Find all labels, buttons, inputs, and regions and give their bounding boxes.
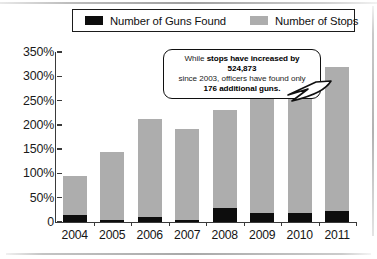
bar-guns-found bbox=[175, 220, 199, 222]
x-axis-label: 2011 bbox=[319, 228, 357, 242]
callout-line-1-prefix: While bbox=[184, 54, 206, 63]
x-axis-label: 2005 bbox=[94, 228, 132, 242]
legend-swatch-guns bbox=[85, 16, 103, 25]
x-axis-tick-mark bbox=[169, 222, 170, 226]
y-axis-tick-mark bbox=[57, 173, 62, 174]
bar-stops bbox=[250, 98, 274, 222]
x-axis-label: 2006 bbox=[131, 228, 169, 242]
bar-stops bbox=[325, 67, 349, 222]
legend-swatch-stops bbox=[250, 16, 268, 25]
bar-guns-found bbox=[325, 211, 349, 222]
bar-group bbox=[325, 52, 349, 222]
y-axis-tick-label: 250% bbox=[23, 93, 54, 107]
x-axis-label: 2010 bbox=[281, 228, 319, 242]
y-axis-tick-label: 200% bbox=[23, 117, 54, 131]
y-axis-tick-mark bbox=[57, 197, 62, 198]
x-axis-label: 2007 bbox=[169, 228, 207, 242]
callout-line-3-bold: 176 additional guns. bbox=[204, 84, 281, 93]
bar-guns-found bbox=[213, 208, 237, 222]
bottom-divider-rule bbox=[6, 253, 371, 255]
bar-guns-found bbox=[138, 217, 162, 222]
x-axis-tick-mark bbox=[319, 222, 320, 226]
bar-group bbox=[100, 52, 124, 222]
x-axis-label: 2009 bbox=[244, 228, 282, 242]
y-axis-tick-label: 300% bbox=[23, 69, 54, 83]
legend-item-guns-found: Number of Guns Found bbox=[85, 15, 226, 27]
x-axis-label: 2004 bbox=[56, 228, 94, 242]
bar-guns-found bbox=[63, 215, 87, 222]
top-divider-rule bbox=[0, 2, 377, 4]
chart-legend: Number of Guns Found Number of Stops bbox=[72, 9, 355, 32]
bar-guns-found bbox=[250, 213, 274, 222]
y-axis-tick-label: 100% bbox=[23, 166, 54, 180]
x-axis-tick-mark bbox=[131, 222, 132, 226]
y-axis-tick-mark bbox=[57, 51, 62, 52]
right-divider-rule bbox=[372, 6, 374, 236]
y-axis-tick-label: 350% bbox=[23, 45, 54, 59]
legend-item-stops: Number of Stops bbox=[250, 15, 358, 27]
bar-group bbox=[63, 52, 87, 222]
chart-figure: Number of Guns Found Number of Stops 050… bbox=[0, 0, 377, 259]
y-axis-tick-mark bbox=[57, 100, 62, 101]
x-axis-tick-mark bbox=[281, 222, 282, 226]
callout-line-3: 176 additional guns. bbox=[170, 84, 314, 94]
bar-stops bbox=[213, 110, 237, 222]
bar-stops bbox=[175, 129, 199, 222]
x-axis-label: 2008 bbox=[206, 228, 244, 242]
y-axis-tick-mark bbox=[57, 76, 62, 77]
bar-guns-found bbox=[100, 220, 124, 222]
callout-line-1-bold: stops have increased by 524,873 bbox=[207, 54, 300, 73]
x-axis-tick-mark bbox=[244, 222, 245, 226]
bar-stops bbox=[288, 91, 312, 222]
bar-guns-found bbox=[288, 213, 312, 222]
bar-stops bbox=[100, 152, 124, 222]
callout-line-2: since 2003, officers have found only bbox=[170, 74, 314, 84]
y-axis-tick-label: 150% bbox=[23, 142, 54, 156]
y-axis-tick-label: 0 bbox=[47, 215, 54, 229]
bar-group bbox=[138, 52, 162, 222]
callout-line-1: While stops have increased by 524,873 bbox=[170, 54, 314, 74]
y-axis-tick-mark bbox=[57, 124, 62, 125]
x-axis-tick-mark bbox=[206, 222, 207, 226]
y-axis-tick-mark bbox=[57, 148, 62, 149]
bar-stops bbox=[138, 119, 162, 222]
x-axis-tick-mark bbox=[94, 222, 95, 226]
legend-label-guns-found: Number of Guns Found bbox=[110, 15, 226, 27]
x-axis-tick-mark bbox=[356, 222, 357, 226]
legend-label-stops: Number of Stops bbox=[275, 15, 358, 27]
y-axis-tick-mark bbox=[57, 221, 62, 222]
annotation-callout: While stops have increased by 524,873 si… bbox=[163, 49, 321, 99]
y-axis-tick-label: 50% bbox=[30, 190, 54, 204]
